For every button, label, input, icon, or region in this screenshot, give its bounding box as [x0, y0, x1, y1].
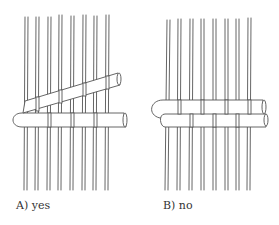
caption-a: A) yes [16, 199, 50, 212]
panel-a-weaver [13, 73, 127, 127]
panel-b-weaver [152, 100, 268, 127]
weaving-diagram [0, 0, 279, 225]
caption-b: B) no [163, 199, 193, 212]
